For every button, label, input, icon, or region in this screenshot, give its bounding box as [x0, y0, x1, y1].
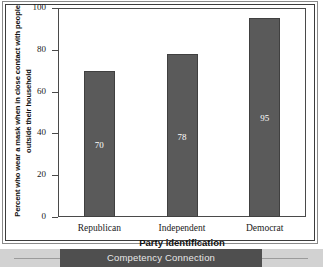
banner-rule-left	[14, 258, 60, 259]
y-axis-tick-label: 100	[33, 2, 47, 12]
bar-value-label: 70	[85, 140, 114, 150]
y-axis-tick: 40	[0, 133, 58, 134]
chart-figure: Percent who wear a mask when in close co…	[0, 0, 323, 267]
bar-value-label: 78	[168, 132, 197, 142]
y-axis-tick-label: 0	[42, 211, 47, 221]
y-axis-tick: 80	[0, 50, 58, 51]
y-axis-tick-label: 60	[37, 86, 46, 96]
footer-banner: Competency Connection	[0, 249, 323, 267]
y-axis-tick-mark	[52, 175, 58, 176]
y-axis-tick-mark	[52, 92, 58, 93]
y-axis-tick-label: 40	[37, 127, 46, 137]
bar: 70	[84, 71, 115, 217]
y-axis-tick: 0	[0, 217, 58, 218]
x-axis-title: Party identification	[58, 237, 306, 248]
y-axis-tick-label: 20	[37, 169, 46, 179]
bar: 95	[249, 18, 280, 217]
y-axis-tick: 60	[0, 92, 58, 93]
banner-label: Competency Connection	[60, 249, 262, 267]
x-axis-category-label: Democrat	[223, 223, 306, 233]
banner-rule-right	[262, 258, 308, 259]
y-axis-tick-label: 80	[37, 44, 46, 54]
y-axis-tick-mark	[52, 217, 58, 218]
y-axis-tick: 20	[0, 175, 58, 176]
x-axis-category-label: Independent	[141, 223, 224, 233]
y-axis-tick-mark	[52, 8, 58, 9]
bar-value-label: 95	[250, 113, 279, 123]
y-axis-tick-mark	[52, 50, 58, 51]
x-axis-category-label: Republican	[58, 223, 141, 233]
y-axis-tick-mark	[52, 133, 58, 134]
y-axis-tick: 100	[0, 8, 58, 9]
y-axis-title-text: Percent who wear a mask when in close co…	[13, 4, 34, 218]
y-axis-title: Percent who wear a mask when in close co…	[8, 4, 38, 218]
bar: 78	[167, 54, 198, 217]
